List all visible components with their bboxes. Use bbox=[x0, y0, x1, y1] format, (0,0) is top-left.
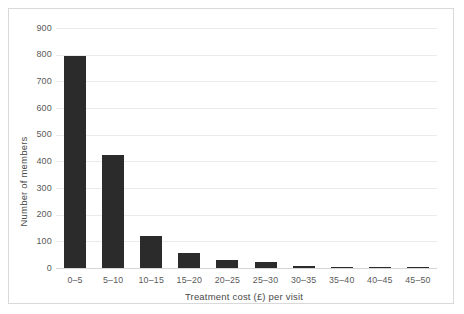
y-axis-tick-label: 800 bbox=[18, 50, 52, 59]
bar bbox=[140, 236, 162, 268]
bar bbox=[178, 253, 200, 268]
y-axis-tick-label: 600 bbox=[18, 104, 52, 113]
y-axis-tick-label: 300 bbox=[18, 184, 52, 193]
gridline bbox=[56, 81, 437, 82]
y-axis-tick-labels: 0100200300400500600700800900 bbox=[14, 28, 52, 268]
y-axis-tick-label: 100 bbox=[18, 237, 52, 246]
x-axis-tick-label: 45–50 bbox=[388, 276, 448, 285]
gridline bbox=[56, 55, 437, 56]
x-axis-title-text: Treatment cost (£) per visit bbox=[185, 291, 303, 302]
gridline bbox=[56, 135, 437, 136]
plot-area bbox=[56, 28, 437, 268]
bar bbox=[369, 267, 391, 269]
x-axis-title: Treatment cost (£) per visit bbox=[0, 291, 464, 302]
bar bbox=[331, 267, 353, 269]
y-axis-tick-label: 900 bbox=[18, 24, 52, 33]
y-axis-tick-label: 500 bbox=[18, 130, 52, 139]
gridline bbox=[56, 108, 437, 109]
bar bbox=[64, 56, 86, 268]
y-axis-tick-label: 400 bbox=[18, 157, 52, 166]
bar bbox=[407, 267, 429, 269]
y-axis-tick-label: 0 bbox=[18, 264, 52, 273]
gridline bbox=[56, 28, 437, 29]
axis-baseline bbox=[56, 268, 437, 269]
bar bbox=[216, 260, 238, 268]
chart-figure: Number of members 0100200300400500600700… bbox=[0, 0, 464, 314]
bar bbox=[102, 155, 124, 268]
bar bbox=[255, 262, 277, 268]
y-axis-tick-label: 200 bbox=[18, 210, 52, 219]
y-axis-tick-label: 700 bbox=[18, 77, 52, 86]
bar bbox=[293, 266, 315, 268]
